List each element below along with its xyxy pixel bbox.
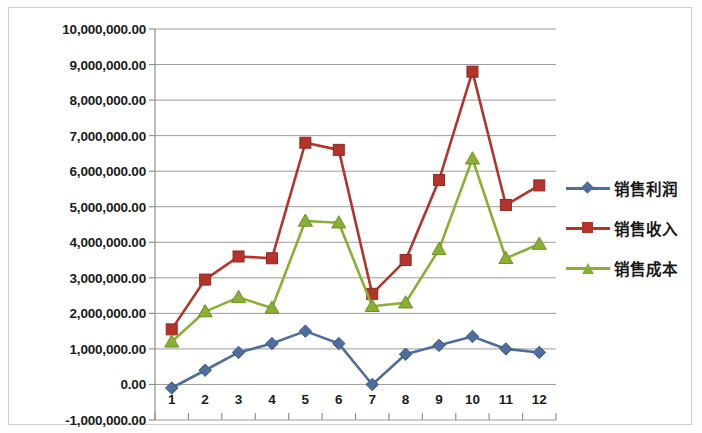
legend-marker-triangle-icon (566, 261, 610, 275)
y-axis-tick-label: -1,000,000.00 (65, 413, 146, 428)
data-point-square (434, 175, 445, 186)
data-point-square (266, 253, 277, 264)
data-point-square (333, 144, 344, 155)
legend-diamond-icon (581, 181, 594, 194)
y-axis-tick-label: 2,000,000.00 (70, 306, 146, 321)
x-axis-tick-label: 5 (302, 392, 310, 407)
x-axis-labels: 123456789101112 (0, 392, 702, 414)
y-axis-tick-label: 6,000,000.00 (70, 164, 146, 179)
y-axis-tick-label: 3,000,000.00 (70, 270, 146, 285)
y-axis-tick-label: 4,000,000.00 (70, 235, 146, 250)
y-axis-tick-label: 10,000,000.00 (62, 22, 146, 37)
y-axis-labels: 10,000,000.009,000,000.008,000,000.007,0… (8, 0, 146, 433)
chart-legend: 销售利润销售收入销售成本 (566, 168, 694, 288)
legend-square-icon (582, 222, 593, 233)
legend-item[interactable]: 销售成本 (566, 248, 694, 288)
data-point-square (233, 251, 244, 262)
data-point-square (400, 255, 411, 266)
chart-screenshot: 10,000,000.009,000,000.008,000,000.007,0… (0, 0, 702, 433)
y-axis-tick-label: 9,000,000.00 (70, 57, 146, 72)
x-axis-tick-label: 10 (465, 392, 480, 407)
x-axis-tick-label: 7 (368, 392, 376, 407)
legend-label: 销售收入 (614, 217, 678, 239)
y-axis-tick-label: 0.00 (121, 377, 146, 392)
x-axis-tick-label: 12 (532, 392, 547, 407)
x-axis-tick-label: 9 (435, 392, 443, 407)
legend-item[interactable]: 销售利润 (566, 168, 694, 208)
y-axis-tick-label: 1,000,000.00 (70, 341, 146, 356)
data-point-square (166, 324, 177, 335)
data-point-square (467, 66, 478, 77)
y-axis-tick-label: 7,000,000.00 (70, 128, 146, 143)
data-point-square (534, 180, 545, 191)
legend-triangle-icon (582, 263, 594, 274)
legend-marker-square-icon (566, 221, 610, 235)
legend-label: 销售成本 (614, 257, 678, 279)
y-axis-tick-label: 8,000,000.00 (70, 93, 146, 108)
x-axis-tick-label: 6 (335, 392, 343, 407)
data-point-square (200, 274, 211, 285)
x-axis-tick-label: 11 (499, 392, 513, 407)
legend-item[interactable]: 销售收入 (566, 208, 694, 248)
x-axis-tick-label: 4 (268, 392, 276, 407)
x-axis-tick-label: 8 (402, 392, 410, 407)
legend-marker-diamond-icon (566, 181, 610, 195)
data-point-square (500, 199, 511, 210)
data-point-square (300, 137, 311, 148)
y-axis-tick-label: 5,000,000.00 (70, 199, 146, 214)
x-axis-tick-label: 1 (168, 392, 176, 407)
x-axis-tick-label: 2 (201, 392, 209, 407)
x-axis-tick-label: 3 (235, 392, 243, 407)
legend-label: 销售利润 (614, 177, 678, 199)
